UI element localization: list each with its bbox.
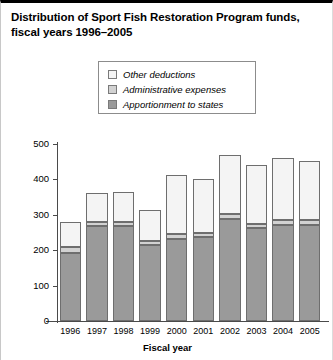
x-tick-label: 1998 (110, 326, 137, 336)
bar-segment (86, 193, 107, 222)
bar-2003[interactable] (246, 165, 267, 321)
bar-segment (60, 247, 81, 253)
legend-swatch-other-deductions (108, 70, 117, 79)
bar-segment (299, 220, 320, 224)
bar-segment (219, 155, 240, 215)
bar-segment (272, 158, 293, 220)
bar-1998[interactable] (113, 192, 134, 321)
chart-legend: Other deductions Administrative expenses… (98, 61, 256, 114)
y-tick-label: 500 (33, 138, 49, 149)
y-tick-label: 200 (33, 244, 49, 255)
bar-segment (60, 253, 81, 321)
y-tick: 300 (1, 215, 57, 216)
bar-2001[interactable] (193, 179, 214, 321)
bar-segment (113, 192, 134, 222)
bar-1997[interactable] (86, 193, 107, 322)
bar-2005[interactable] (299, 161, 320, 321)
chart-title: Distribution of Sport Fish Restoration P… (11, 10, 321, 40)
bar-segment (166, 239, 187, 321)
x-tick-label: 1997 (84, 326, 111, 336)
y-tick: 200 (1, 250, 57, 251)
legend-swatch-apportionment-to-states (108, 100, 117, 109)
y-tick: 400 (1, 179, 57, 180)
bar-segment (113, 226, 134, 321)
x-tick-label: 1996 (57, 326, 84, 336)
y-tick-label: 0 (44, 315, 49, 326)
y-tick-label: 400 (33, 173, 49, 184)
bar-segment (193, 179, 214, 232)
bar-1999[interactable] (139, 210, 160, 321)
bar-segment (219, 219, 240, 321)
x-tick-label: 2003 (243, 326, 270, 336)
bar-segment (86, 226, 107, 321)
bar-2000[interactable] (166, 175, 187, 321)
x-axis-label: Fiscal year (1, 342, 333, 353)
bar-segment (113, 222, 134, 226)
bar-segment (246, 228, 267, 321)
bar-segment (86, 222, 107, 226)
x-tick-label: 2005 (296, 326, 323, 336)
bar-segment (299, 161, 320, 220)
bar-segment (166, 175, 187, 234)
bar-segment (139, 210, 160, 241)
y-tick-label: 100 (33, 280, 49, 291)
y-tick: 500 (1, 144, 57, 145)
bar-segment (219, 214, 240, 219)
bar-2004[interactable] (272, 158, 293, 321)
bar-1996[interactable] (60, 222, 81, 321)
bar-segment (139, 245, 160, 321)
bar-segment (299, 225, 320, 321)
plot-area (57, 144, 323, 321)
bar-segment (166, 234, 187, 238)
legend-item-administrative-expenses: Administrative expenses (108, 82, 255, 96)
bar-segment (246, 165, 267, 224)
x-tick-label: 2000 (163, 326, 190, 336)
legend-item-apportionment-to-states: Apportionment to states (108, 97, 255, 111)
bar-segment (193, 237, 214, 321)
legend-label-other-deductions: Other deductions (123, 69, 195, 80)
legend-swatch-administrative-expenses (108, 85, 117, 94)
bar-segment (272, 225, 293, 321)
y-tick-label: 300 (33, 209, 49, 220)
bar-2002[interactable] (219, 155, 240, 321)
x-tick-label: 2002 (217, 326, 244, 336)
legend-label-administrative-expenses: Administrative expenses (123, 84, 226, 95)
x-tick-label: 1999 (137, 326, 164, 336)
y-tick-mark (53, 321, 57, 322)
y-tick: 0 (1, 321, 57, 322)
bar-segment (272, 220, 293, 224)
x-tick-label: 2004 (270, 326, 297, 336)
legend-item-other-deductions: Other deductions (108, 67, 255, 81)
legend-label-apportionment-to-states: Apportionment to states (123, 99, 223, 110)
chart-figure: Distribution of Sport Fish Restoration P… (0, 0, 333, 360)
bar-segment (193, 233, 214, 238)
y-tick: 100 (1, 286, 57, 287)
bar-segment (60, 222, 81, 247)
x-axis-line (46, 321, 329, 322)
x-tick-label: 2001 (190, 326, 217, 336)
bar-segment (139, 241, 160, 246)
bar-segment (246, 224, 267, 228)
